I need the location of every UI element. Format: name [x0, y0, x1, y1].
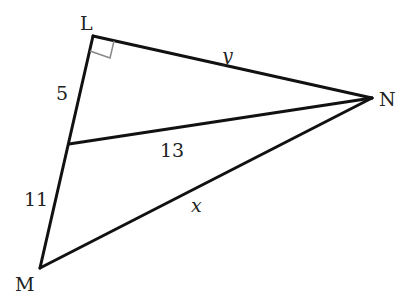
variable-label-x: x — [191, 194, 202, 216]
vertex-label-N: N — [379, 88, 396, 110]
length-label-PN: 13 — [160, 139, 184, 161]
right-angle-marker — [90, 41, 114, 58]
vertex-label-L: L — [80, 12, 93, 34]
variable-label-y: y — [221, 44, 233, 66]
vertex-label-M: M — [15, 273, 34, 295]
length-label-PM: 11 — [24, 188, 48, 210]
side-LM — [40, 36, 93, 268]
length-label-LP: 5 — [56, 82, 68, 104]
triangle-diagram: L N M 5 11 13 y x — [0, 0, 407, 302]
